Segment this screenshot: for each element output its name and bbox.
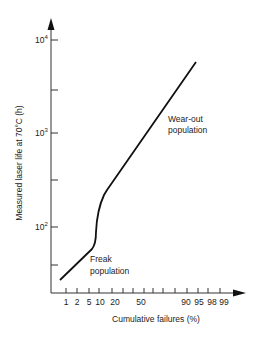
y-tick-label-10e4: 104 (35, 34, 48, 45)
svg-text:90: 90 (181, 297, 191, 307)
x-tick-labels: 1 2 5 10 20 50 90 95 98 99 (64, 297, 229, 307)
svg-text:10: 10 (95, 297, 105, 307)
chart-canvas: 104 103 102 1 2 5 10 20 50 90 95 98 99 F… (0, 0, 259, 338)
y-axis-arrow-icon (48, 18, 55, 30)
y-ticks (51, 40, 58, 265)
svg-text:2: 2 (75, 297, 80, 307)
freak-annotation-line1: Freak (90, 254, 112, 264)
svg-text:99: 99 (219, 297, 229, 307)
svg-text:98: 98 (207, 297, 217, 307)
svg-text:1: 1 (64, 297, 69, 307)
svg-text:95: 95 (194, 297, 204, 307)
x-axis-title: Cumulative failures (%) (112, 314, 200, 324)
x-ticks (66, 288, 220, 293)
svg-text:20: 20 (110, 297, 120, 307)
svg-text:50: 50 (136, 297, 146, 307)
freak-annotation-line2: population (90, 266, 130, 276)
y-axis-title: Measured laser life at 70°C (h) (14, 105, 24, 221)
x-axis-arrow-icon (233, 290, 246, 297)
y-tick-label-10e3: 103 (35, 127, 48, 138)
svg-text:5: 5 (87, 297, 92, 307)
wearout-annotation-line1: Wear-out (168, 114, 203, 124)
wearout-annotation-line2: population (168, 125, 208, 135)
laser-life-curve (60, 62, 196, 280)
y-tick-label-10e2: 102 (35, 221, 48, 232)
